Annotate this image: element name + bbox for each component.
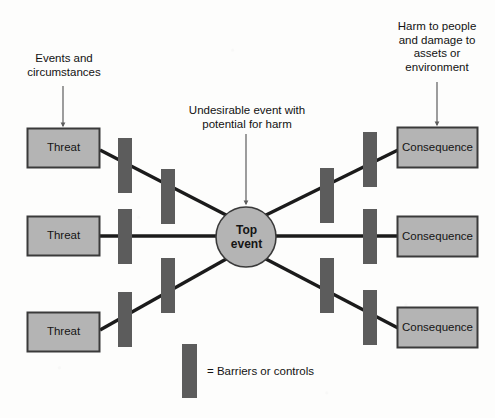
barrier-bar-left-2b[interactable] <box>161 258 175 313</box>
barrier-bar-right-1b[interactable] <box>363 132 377 187</box>
bowtie-diagram-canvas: Threat Threat Threat Consequence Consequ… <box>0 0 495 418</box>
left-annotation-text: Events and circumstances <box>8 52 120 79</box>
threat-box-2-label: Threat <box>27 229 100 241</box>
top-event-label-line-2: event <box>216 238 277 251</box>
barrier-bar-left-3a[interactable] <box>118 292 132 347</box>
barrier-bar-left-1b[interactable] <box>161 169 175 224</box>
consequence-box-2-label: Consequence <box>397 230 478 242</box>
barrier-bar-right-3a[interactable] <box>320 258 334 313</box>
threat-box-3-label: Threat <box>27 325 100 337</box>
barrier-swatch <box>182 344 197 398</box>
threat-box-1-label: Threat <box>27 141 100 153</box>
center-annotation-text: Undesirable event with potential for har… <box>182 104 312 131</box>
barrier-bar-right-2a[interactable] <box>363 209 377 264</box>
barrier-bar-left-2a[interactable] <box>118 209 132 264</box>
legend-label: = Barriers or controls <box>207 365 314 377</box>
barrier-bar-right-1a[interactable] <box>320 168 334 223</box>
top-event-label-line-1: Top <box>216 224 277 237</box>
consequence-box-3-label: Consequence <box>397 321 478 333</box>
right-annotation-text: Harm to people and damage to assets or e… <box>381 20 493 74</box>
barrier-bar-left-1a[interactable] <box>118 138 132 193</box>
barrier-bar-right-3b[interactable] <box>363 290 377 345</box>
consequence-box-1-label: Consequence <box>397 141 478 153</box>
